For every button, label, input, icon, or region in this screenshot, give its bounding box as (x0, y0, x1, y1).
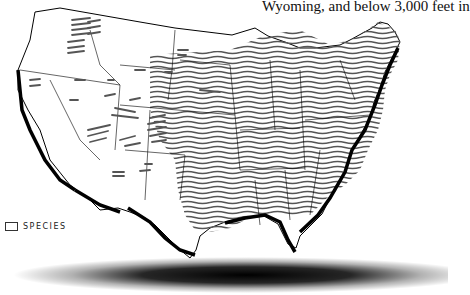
legend: SPECIES (5, 222, 67, 231)
legend-label-species: SPECIES (23, 222, 67, 231)
map-caption-text: Wyoming, and below 3,000 feet in (262, 0, 470, 15)
hatched-lines-swatch-icon (5, 222, 18, 231)
